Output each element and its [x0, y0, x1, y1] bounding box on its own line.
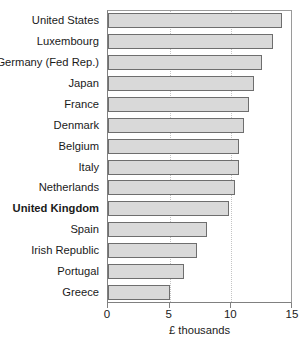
- bar-row: [108, 137, 291, 158]
- bar-row: [108, 262, 291, 283]
- bar-row: [108, 220, 291, 241]
- bar: [108, 13, 282, 28]
- bar: [108, 97, 249, 112]
- category-label: France: [64, 94, 99, 115]
- bar-row: [108, 116, 291, 137]
- category-label: Portugal: [57, 261, 99, 282]
- bar-row: [108, 11, 291, 32]
- category-label: United Kingdom: [13, 198, 99, 219]
- bar: [108, 76, 254, 91]
- category-label: United States: [32, 10, 99, 31]
- category-label: Spain: [70, 219, 99, 240]
- bar-row: [108, 74, 291, 95]
- axis-tick-label: 5: [165, 308, 171, 320]
- bar: [108, 139, 239, 154]
- bar: [108, 180, 235, 195]
- bar: [108, 243, 197, 258]
- category-label: Netherlands: [39, 177, 99, 198]
- bar: [108, 201, 229, 216]
- category-label: Germany (Fed Rep.): [0, 52, 99, 73]
- bar: [108, 34, 273, 49]
- x-axis-title: £ thousands: [107, 324, 292, 336]
- bar: [108, 285, 170, 300]
- bar-row: [108, 178, 291, 199]
- bar-row: [108, 53, 291, 74]
- bar: [108, 222, 207, 237]
- bar-row: [108, 199, 291, 220]
- bar: [108, 118, 244, 133]
- plot-area: [107, 10, 292, 303]
- axis-tick-label: 10: [224, 308, 237, 320]
- bar-row: [108, 283, 291, 304]
- category-label: Irish Republic: [31, 240, 99, 261]
- value-axis: 051015: [107, 303, 292, 325]
- bar-row: [108, 32, 291, 53]
- axis-tick-label: 15: [286, 308, 299, 320]
- axis-tick-label: 0: [104, 308, 110, 320]
- bar-row: [108, 241, 291, 262]
- category-label: Italy: [78, 157, 99, 178]
- bar: [108, 264, 184, 279]
- category-label: Japan: [69, 73, 99, 94]
- category-label: Luxembourg: [37, 31, 99, 52]
- category-label: Denmark: [54, 115, 99, 136]
- bar-row: [108, 95, 291, 116]
- bar: [108, 55, 262, 70]
- bar-chart: United StatesLuxembourgGermany (Fed Rep.…: [0, 0, 302, 343]
- bar: [108, 160, 239, 175]
- category-axis: United StatesLuxembourgGermany (Fed Rep.…: [0, 10, 103, 303]
- category-label: Greece: [62, 282, 99, 303]
- bar-row: [108, 158, 291, 179]
- category-label: Belgium: [59, 136, 99, 157]
